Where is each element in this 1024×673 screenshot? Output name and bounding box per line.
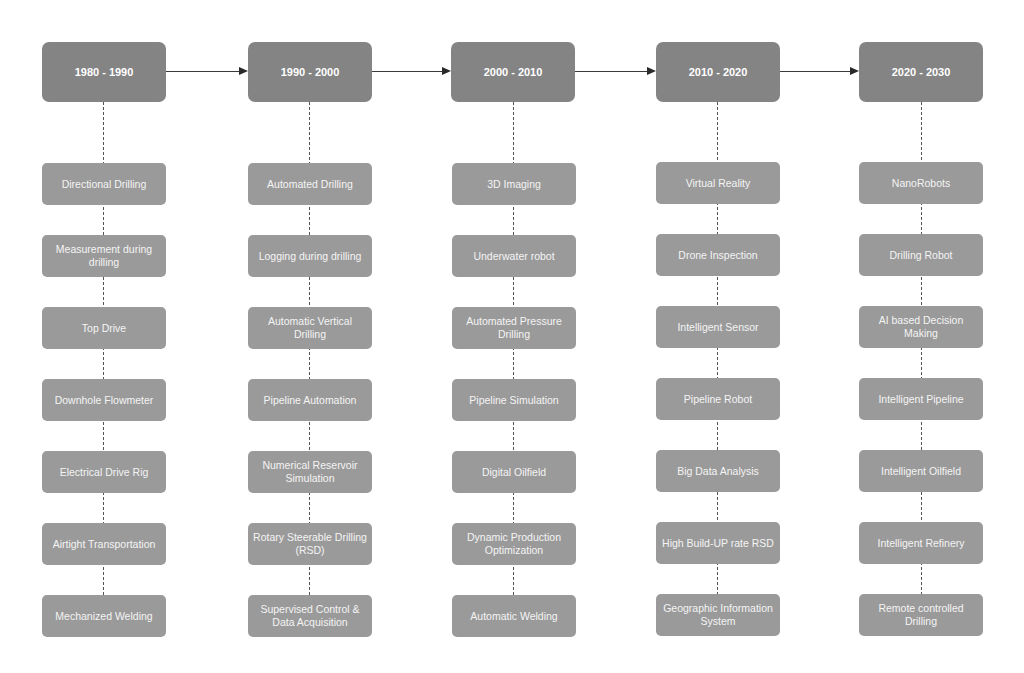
tech-item: Electrical Drive Rig [42, 451, 166, 493]
technology-timeline-diagram: 1980 - 1990 Directional Drilling Measure… [0, 0, 1024, 673]
tech-item: Supervised Control & Data Acquisition [248, 595, 372, 637]
tech-item-label: 3D Imaging [487, 178, 541, 191]
tech-item: Automated Drilling [248, 163, 372, 205]
tech-item: Intelligent Sensor [656, 306, 780, 348]
tech-item-label: Pipeline Robot [684, 393, 752, 406]
period-header-2000-2010: 2000 - 2010 [451, 42, 575, 102]
tech-item-label: Mechanized Welding [55, 610, 152, 623]
tech-item-label: Big Data Analysis [677, 465, 759, 478]
tech-item: Mechanized Welding [42, 595, 166, 637]
tech-item-label: Top Drive [82, 322, 126, 335]
tech-item: Intelligent Refinery [859, 522, 983, 564]
tech-item-label: Remote controlled Drilling [863, 602, 979, 628]
tech-item-label: Numerical Reservoir Simulation [252, 459, 368, 485]
tech-item-label: Dynamic Production Optimization [456, 531, 572, 557]
tech-item: Directional Drilling [42, 163, 166, 205]
period-label: 2020 - 2030 [892, 66, 951, 78]
arrowhead-icon [442, 67, 451, 75]
tech-item: Top Drive [42, 307, 166, 349]
tech-item: Automatic Welding [452, 595, 576, 637]
tech-item: 3D Imaging [452, 163, 576, 205]
tech-item-label: Automated Drilling [267, 178, 353, 191]
tech-item: Geographic Information System [656, 594, 780, 636]
tech-item-label: Supervised Control & Data Acquisition [252, 603, 368, 629]
tech-item: Dynamic Production Optimization [452, 523, 576, 565]
tech-item: Intelligent Oilfield [859, 450, 983, 492]
arrow-2000-to-2010 [575, 71, 647, 72]
tech-item: High Build-UP rate RSD [656, 522, 780, 564]
tech-item: Pipeline Simulation [452, 379, 576, 421]
tech-item-label: Underwater robot [473, 250, 554, 263]
tech-item: Rotary Steerable Drilling (RSD) [248, 523, 372, 565]
tech-item-label: Drilling Robot [889, 249, 952, 262]
tech-item: Pipeline Automation [248, 379, 372, 421]
period-header-2010-2020: 2010 - 2020 [656, 42, 780, 102]
tech-item-label: Rotary Steerable Drilling (RSD) [252, 531, 368, 557]
period-header-2020-2030: 2020 - 2030 [859, 42, 983, 102]
tech-item-label: Logging during drilling [259, 250, 362, 263]
tech-item-label: Directional Drilling [62, 178, 147, 191]
tech-item-label: Automatic Welding [470, 610, 557, 623]
tech-item-label: Airtight Transportation [53, 538, 156, 551]
tech-item-label: Automated Pressure Drilling [456, 315, 572, 341]
tech-item: Virtual Reality [656, 162, 780, 204]
arrow-1990-to-2000 [370, 71, 442, 72]
arrowhead-icon [850, 67, 859, 75]
tech-item-label: Drone Inspection [678, 249, 757, 262]
tech-item: Big Data Analysis [656, 450, 780, 492]
tech-item: Remote controlled Drilling [859, 594, 983, 636]
tech-item: Drilling Robot [859, 234, 983, 276]
period-label: 1990 - 2000 [281, 66, 340, 78]
tech-item: Logging during drilling [248, 235, 372, 277]
tech-item-label: High Build-UP rate RSD [662, 537, 774, 550]
tech-item-label: NanoRobots [892, 177, 950, 190]
tech-item-label: Electrical Drive Rig [60, 466, 149, 479]
tech-item-label: Measurement during drilling [46, 243, 162, 269]
tech-item: AI based Decision Making [859, 306, 983, 348]
period-label: 2010 - 2020 [689, 66, 748, 78]
tech-item-label: Automatic Vertical Drilling [252, 315, 368, 341]
tech-item-label: Geographic Information System [660, 602, 776, 628]
arrow-1980-to-1990 [166, 71, 239, 72]
tech-item-label: Intelligent Refinery [878, 537, 965, 550]
tech-item: Digital Oilfield [452, 451, 576, 493]
tech-item-label: Pipeline Automation [264, 394, 357, 407]
tech-item-label: Intelligent Oilfield [881, 465, 961, 478]
arrowhead-icon [647, 67, 656, 75]
tech-item: Intelligent Pipeline [859, 378, 983, 420]
period-header-1990-2000: 1990 - 2000 [248, 42, 372, 102]
period-header-1980-1990: 1980 - 1990 [42, 42, 166, 102]
tech-item: NanoRobots [859, 162, 983, 204]
tech-item: Pipeline Robot [656, 378, 780, 420]
tech-item: Drone Inspection [656, 234, 780, 276]
tech-item: Automatic Vertical Drilling [248, 307, 372, 349]
tech-item-label: Pipeline Simulation [469, 394, 558, 407]
tech-item: Downhole Flowmeter [42, 379, 166, 421]
period-label: 2000 - 2010 [484, 66, 543, 78]
tech-item-label: AI based Decision Making [863, 314, 979, 340]
tech-item: Numerical Reservoir Simulation [248, 451, 372, 493]
period-label: 1980 - 1990 [75, 66, 134, 78]
tech-item: Automated Pressure Drilling [452, 307, 576, 349]
tech-item-label: Intelligent Sensor [677, 321, 758, 334]
arrow-2010-to-2020 [780, 71, 850, 72]
tech-item-label: Virtual Reality [686, 177, 751, 190]
tech-item-label: Digital Oilfield [482, 466, 546, 479]
tech-item-label: Intelligent Pipeline [878, 393, 963, 406]
arrowhead-icon [239, 67, 248, 75]
tech-item: Measurement during drilling [42, 235, 166, 277]
tech-item: Airtight Transportation [42, 523, 166, 565]
tech-item: Underwater robot [452, 235, 576, 277]
tech-item-label: Downhole Flowmeter [55, 394, 154, 407]
